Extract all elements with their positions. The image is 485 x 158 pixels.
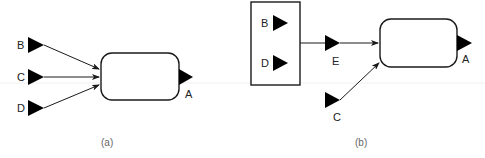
block-box-a[interactable]: [101, 53, 179, 100]
port-c-b[interactable]: C: [325, 92, 341, 123]
port-triangle-icon: [457, 35, 472, 51]
connector-b-to-box: [44, 45, 99, 69]
panel-b: B D E C A (b): [251, 2, 472, 148]
port-label-a: A: [185, 88, 193, 100]
port-label-d: D: [261, 57, 269, 69]
group-box-b[interactable]: [251, 2, 300, 85]
port-e-b[interactable]: E: [325, 35, 340, 67]
diagram-canvas: B C D A (a) B D: [0, 0, 485, 158]
connector-c-to-box: [340, 63, 379, 100]
connector-d-to-box: [44, 85, 99, 108]
port-label-d: D: [17, 102, 25, 114]
caption-b: (b): [355, 137, 367, 148]
port-label-e: E: [332, 55, 339, 67]
panel-a: B C D A (a): [17, 37, 193, 148]
port-b-a[interactable]: B: [17, 37, 44, 53]
port-triangle-icon: [325, 92, 340, 108]
caption-a: (a): [101, 137, 113, 148]
port-label-b: B: [17, 39, 24, 51]
port-label-c: C: [17, 71, 25, 83]
block-box-b[interactable]: [380, 19, 457, 67]
port-triangle-icon: [28, 100, 44, 116]
port-triangle-icon: [28, 37, 44, 53]
port-label-a: A: [462, 53, 470, 65]
port-a-a[interactable]: A: [179, 69, 193, 100]
port-label-b: B: [261, 17, 268, 29]
port-label-c: C: [333, 111, 341, 123]
port-a-b[interactable]: A: [457, 35, 472, 65]
port-triangle-icon: [325, 35, 340, 51]
port-d-a[interactable]: D: [17, 100, 44, 116]
